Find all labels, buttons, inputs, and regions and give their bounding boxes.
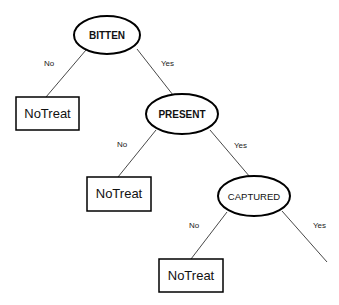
edge-label-bitten-no: No: [44, 59, 55, 68]
node-captured-label: CAPTURED: [228, 191, 280, 202]
leaf-notreat-3-label: NoTreat: [168, 268, 215, 283]
edge-label-captured-yes: Yes: [313, 221, 326, 230]
edge-bitten-yes: [137, 49, 173, 95]
node-bitten: BITTEN: [74, 16, 140, 54]
edge-present-yes: [210, 130, 250, 177]
edge-captured-yes: [282, 211, 327, 262]
node-bitten-label: BITTEN: [89, 30, 125, 41]
edge-captured-no: [191, 212, 227, 259]
edge-bitten-no: [46, 50, 86, 97]
node-present-label: PRESENT: [158, 109, 205, 120]
leaf-notreat-1-label: NoTreat: [24, 106, 71, 121]
edge-label-present-yes: Yes: [234, 141, 247, 150]
node-present: PRESENT: [146, 94, 218, 134]
leaf-notreat-2: NoTreat: [87, 177, 151, 211]
edge-present-no: [118, 130, 156, 177]
node-captured: CAPTURED: [218, 176, 290, 216]
edge-label-captured-no: No: [189, 221, 200, 230]
leaf-notreat-3: NoTreat: [159, 259, 223, 292]
edge-label-bitten-yes: Yes: [161, 59, 174, 68]
leaf-notreat-1: NoTreat: [16, 97, 79, 130]
decision-tree-diagram: No Yes No Yes No Yes BITTEN PRESENT CAPT…: [0, 0, 339, 305]
edge-label-present-no: No: [117, 140, 128, 149]
leaf-notreat-2-label: NoTreat: [96, 186, 143, 201]
